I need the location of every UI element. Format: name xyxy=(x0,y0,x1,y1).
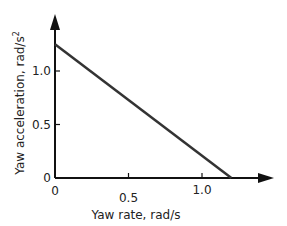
y-tick-label: 0 xyxy=(43,171,51,185)
y-axis-title: Yaw acceleration, rad/s2 xyxy=(12,31,27,176)
x-axis-arrow-icon xyxy=(258,173,274,183)
labels: 00.51.000.51.0Yaw rate, rad/sYaw acceler… xyxy=(12,31,212,222)
x-tick-label: 0.5 xyxy=(119,191,138,205)
y-axis-arrow-icon xyxy=(50,14,60,30)
chart: 00.51.000.51.0Yaw rate, rad/sYaw acceler… xyxy=(0,0,287,226)
x-tick-label: 0 xyxy=(51,184,59,198)
y-tick-label: 0.5 xyxy=(32,118,51,132)
data-line xyxy=(55,44,231,178)
axes xyxy=(50,14,274,183)
y-tick-label: 1.0 xyxy=(32,64,51,78)
series xyxy=(55,44,231,178)
x-axis-title: Yaw rate, rad/s xyxy=(91,208,181,222)
x-tick-label: 1.0 xyxy=(192,183,211,197)
y-axis-title-superscript: 2 xyxy=(12,31,21,36)
